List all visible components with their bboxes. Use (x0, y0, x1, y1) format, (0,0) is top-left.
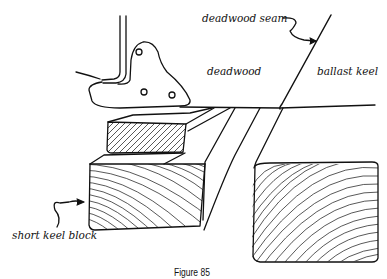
rail-3 (254, 108, 283, 168)
label-ballast-keel: ballast keel (317, 65, 378, 77)
label-deadwood-seam: deadwood seam (202, 12, 287, 24)
deadwood-bottom (180, 105, 375, 108)
ballast-keel-block (253, 162, 378, 262)
gudgeon-plate (89, 42, 190, 108)
sternpost (102, 16, 126, 83)
rail-2 (204, 108, 260, 230)
deadwood-seam-line (280, 15, 331, 109)
leader-line (76, 72, 100, 79)
figure-caption: Figure 85 (174, 267, 210, 278)
label-short-keel-block: short keel block (12, 229, 97, 241)
label-deadwood: deadwood (207, 65, 261, 77)
